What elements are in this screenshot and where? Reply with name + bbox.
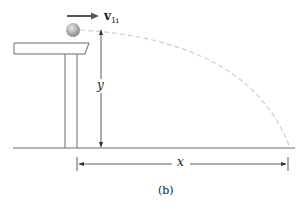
ball xyxy=(66,23,80,37)
distance-arrow-left xyxy=(78,162,84,166)
distance-arrow-right xyxy=(281,162,287,166)
velocity-label: v1i xyxy=(104,9,119,25)
distance-label: x xyxy=(177,155,184,169)
height-label: y xyxy=(97,78,104,92)
table-top xyxy=(14,43,89,54)
velocity-arrowhead xyxy=(91,13,99,20)
velocity-subscript: 1i xyxy=(111,16,119,25)
velocity-symbol: v xyxy=(104,9,111,23)
projectile-diagram xyxy=(0,0,307,209)
height-arrow-down xyxy=(99,142,103,148)
trajectory-path xyxy=(80,30,290,148)
figure-caption: (b) xyxy=(158,184,174,197)
